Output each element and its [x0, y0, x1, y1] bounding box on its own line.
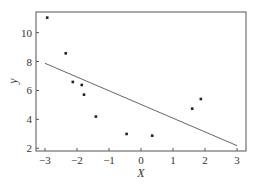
- y-tick-label: 10: [21, 27, 33, 39]
- x-tick-label: 0: [138, 154, 144, 166]
- data-point: [151, 134, 154, 137]
- x-tick-label: −1: [103, 154, 115, 166]
- data-point: [64, 52, 67, 55]
- y-tick-label: 6: [27, 84, 33, 96]
- data-point: [125, 133, 128, 136]
- x-tick-label: −2: [71, 154, 83, 166]
- y-tick-label: 2: [27, 142, 33, 154]
- plot-frame: [36, 12, 246, 151]
- x-tick-label: 3: [234, 154, 240, 166]
- x-tick-label: −3: [39, 154, 51, 166]
- x-axis-label: X: [136, 166, 145, 180]
- y-tick-label: 8: [27, 56, 33, 68]
- data-point: [72, 81, 75, 84]
- data-point: [191, 107, 194, 110]
- data-point: [46, 16, 49, 19]
- fitted-line: [45, 63, 237, 145]
- data-points: [46, 16, 202, 137]
- data-point: [80, 84, 83, 87]
- y-axis-label: y: [6, 78, 20, 85]
- regression-line: [45, 63, 237, 145]
- data-point: [95, 115, 98, 118]
- data-point: [83, 93, 86, 96]
- y-tick-label: 4: [27, 113, 33, 125]
- scatter-chart: −3−2−10123 246810 X y: [0, 0, 257, 184]
- x-tick-label: 1: [170, 154, 176, 166]
- data-point: [200, 98, 203, 101]
- x-tick-label: 2: [202, 154, 208, 166]
